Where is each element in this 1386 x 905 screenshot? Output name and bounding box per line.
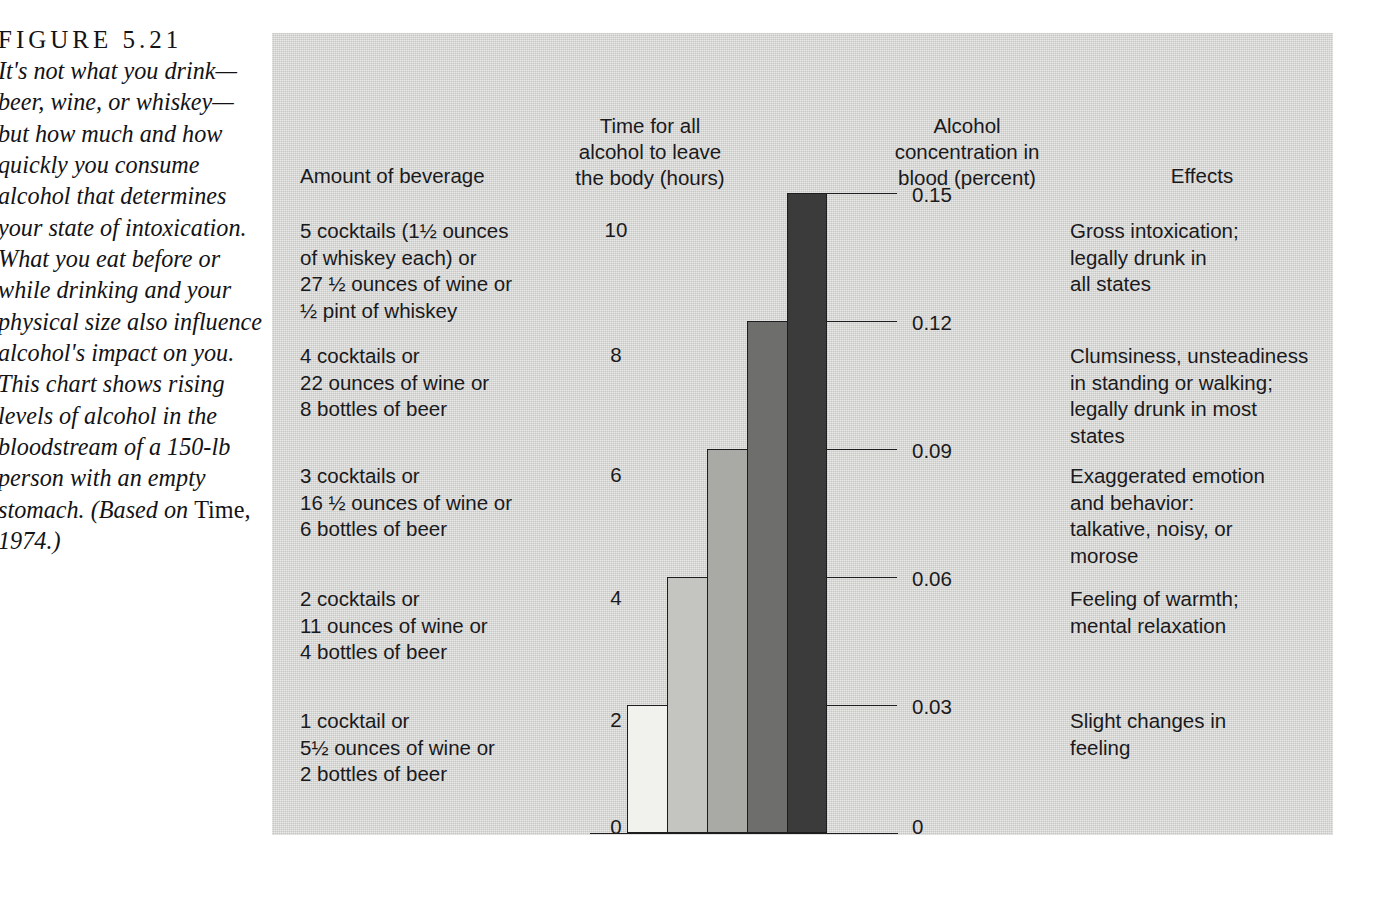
column-header-time: Time for all alcohol to leave the body (… — [530, 113, 770, 190]
figure-panel: Amount of beverage Time for all alcohol … — [272, 33, 1333, 835]
concentration-label-0: 0 — [912, 815, 923, 839]
leader-line-0.09 — [827, 449, 897, 450]
effects-row-5: Slight changes in feeling — [1070, 708, 1332, 761]
concentration-label-0.12: 0.12 — [912, 311, 952, 335]
figure-caption-column: FIGURE 5.21 It's not what you drink—beer… — [0, 26, 262, 556]
concentration-label-0.06: 0.06 — [912, 567, 952, 591]
column-header-alcohol: Alcohol concentration in blood (percent) — [842, 113, 1092, 190]
column-header-effects: Effects — [1102, 163, 1302, 189]
leader-line-0.03 — [827, 705, 897, 706]
leader-line-0.06 — [827, 577, 897, 578]
bar-0.15 — [787, 193, 827, 833]
effects-row-1: Gross intoxication; legally drunk in all… — [1070, 218, 1332, 298]
leader-line-0.12 — [827, 321, 897, 322]
effects-row-4: Feeling of warmth; mental relaxation — [1070, 586, 1332, 639]
effects-row-2: Clumsiness, unsteadiness in standing or … — [1070, 343, 1332, 450]
beverage-description-row-1: 5 cocktails (1½ ounces of whiskey each) … — [300, 218, 568, 325]
beverage-description-row-4: 2 cocktails or 11 ounces of wine or 4 bo… — [300, 586, 568, 666]
beverage-description-row-2: 4 cocktails or 22 ounces of wine or 8 bo… — [300, 343, 568, 423]
leader-line-0.15 — [827, 193, 897, 194]
concentration-label-0.03: 0.03 — [912, 695, 952, 719]
alcohol-concentration-bar-chart — [627, 193, 957, 833]
figure-number: FIGURE 5.21 — [0, 26, 262, 54]
effects-row-3: Exaggerated emotion and behavior: talkat… — [1070, 463, 1332, 570]
figure-caption-text: It's not what you drink—beer, wine, or w… — [0, 55, 262, 556]
caption-source-title: Time — [194, 496, 244, 523]
chart-baseline-axis — [590, 833, 898, 834]
caption-main: It's not what you drink—beer, wine, or w… — [0, 57, 262, 523]
beverage-description-row-5: 1 cocktail or 5½ ounces of wine or 2 bot… — [300, 708, 568, 788]
concentration-label-0.09: 0.09 — [912, 439, 952, 463]
concentration-label-0.15: 0.15 — [912, 183, 952, 207]
beverage-description-row-3: 3 cocktails or 16 ½ ounces of wine or 6 … — [300, 463, 568, 543]
column-header-amount: Amount of beverage — [300, 163, 540, 189]
